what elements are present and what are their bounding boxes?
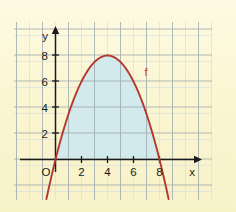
y-axis-arrow [52,26,59,34]
curve-label-f: f [144,66,148,78]
x-tick-label-2: 2 [78,166,84,178]
y-tick-label-6: 6 [42,76,48,88]
graph-plot: 8 6 4 2 2 4 6 8 O x y f [0,0,236,212]
x-axis-arrow [194,156,202,163]
figure-container: 8 6 4 2 2 4 6 8 O x y f [0,0,236,212]
x-tick-label-8: 8 [156,166,162,178]
x-axis-label: x [189,166,195,178]
y-tick-label-4: 4 [42,102,49,114]
y-axis-label: y [42,30,48,42]
y-tick-label-8: 8 [42,50,48,62]
y-tick-label-2: 2 [42,128,48,140]
x-tick-label-4: 4 [104,166,111,178]
origin-label: O [42,166,51,178]
x-tick-label-6: 6 [130,166,136,178]
